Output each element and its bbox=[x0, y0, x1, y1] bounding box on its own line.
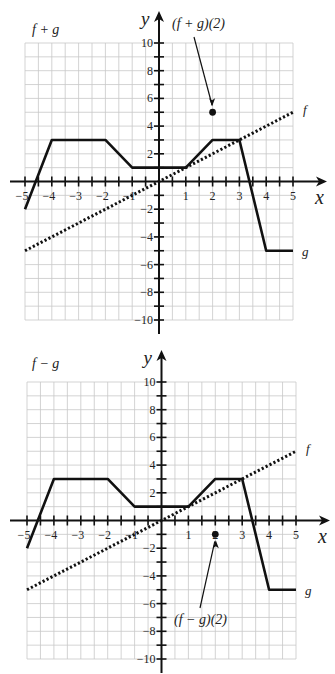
svg-text:−10: −10 bbox=[134, 313, 153, 327]
svg-text:10: 10 bbox=[144, 375, 156, 389]
svg-text:5: 5 bbox=[290, 189, 296, 203]
annotation-label: (f + g)(2) bbox=[172, 16, 225, 32]
svg-text:4: 4 bbox=[150, 458, 156, 472]
svg-text:8: 8 bbox=[147, 64, 153, 78]
chart-1: −5−4−3−2−112345−10−8−6−4−2246810xyf + gf… bbox=[10, 8, 327, 334]
svg-text:5: 5 bbox=[293, 528, 299, 542]
series-label-f: f bbox=[303, 102, 309, 117]
series-label-g: g bbox=[305, 583, 312, 598]
svg-text:1: 1 bbox=[183, 189, 189, 203]
svg-text:−3: −3 bbox=[71, 528, 84, 542]
svg-text:−2: −2 bbox=[143, 541, 156, 555]
svg-text:−6: −6 bbox=[143, 597, 156, 611]
svg-text:3: 3 bbox=[239, 528, 245, 542]
annotation-label: (f − g)(2) bbox=[174, 612, 227, 628]
chart-title: f − g bbox=[32, 356, 59, 371]
svg-text:−4: −4 bbox=[143, 569, 156, 583]
y-axis-label: y bbox=[142, 347, 153, 368]
svg-text:4: 4 bbox=[263, 189, 269, 203]
svg-text:−5: −5 bbox=[18, 528, 31, 542]
svg-text:−2: −2 bbox=[96, 189, 109, 203]
svg-text:10: 10 bbox=[141, 36, 153, 50]
svg-text:1: 1 bbox=[185, 528, 191, 542]
charts: −5−4−3−2−112345−10−8−6−4−2246810xyf + gf… bbox=[0, 0, 335, 674]
series-label-g: g bbox=[302, 244, 309, 259]
y-axis-label: y bbox=[139, 8, 150, 29]
annotated-point bbox=[212, 531, 219, 538]
svg-text:−10: −10 bbox=[137, 652, 156, 666]
svg-text:6: 6 bbox=[150, 430, 156, 444]
svg-text:−2: −2 bbox=[140, 202, 153, 216]
annotated-point bbox=[209, 109, 216, 116]
svg-text:−4: −4 bbox=[42, 189, 55, 203]
x-axis-label: x bbox=[317, 525, 327, 547]
chart-2: −5−4−3−2−112345−10−8−6−4−2246810xyf − gf… bbox=[10, 347, 330, 673]
svg-text:−8: −8 bbox=[140, 285, 153, 299]
svg-text:6: 6 bbox=[147, 91, 153, 105]
svg-text:−4: −4 bbox=[140, 230, 153, 244]
axes bbox=[10, 350, 330, 673]
svg-text:2: 2 bbox=[210, 189, 216, 203]
series-label-f: f bbox=[306, 441, 312, 456]
svg-text:−4: −4 bbox=[45, 528, 58, 542]
svg-text:−5: −5 bbox=[16, 189, 29, 203]
svg-text:−6: −6 bbox=[140, 258, 153, 272]
chart-title: f + g bbox=[32, 22, 59, 37]
x-axis-label: x bbox=[314, 186, 324, 208]
svg-text:2: 2 bbox=[150, 486, 156, 500]
svg-text:8: 8 bbox=[150, 403, 156, 417]
svg-text:−3: −3 bbox=[69, 189, 82, 203]
svg-text:4: 4 bbox=[266, 528, 272, 542]
svg-text:−8: −8 bbox=[143, 624, 156, 638]
svg-text:−2: −2 bbox=[98, 528, 111, 542]
svg-text:3: 3 bbox=[236, 189, 242, 203]
svg-text:2: 2 bbox=[147, 147, 153, 161]
svg-text:4: 4 bbox=[147, 119, 153, 133]
